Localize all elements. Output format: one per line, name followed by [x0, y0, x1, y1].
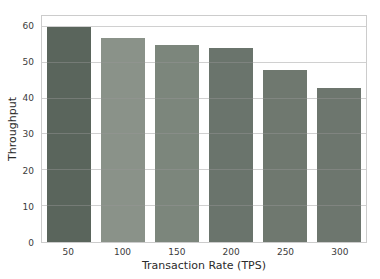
gridline-y-10: [42, 205, 366, 206]
x-tick-label-100: 100: [96, 247, 150, 257]
bar-100: [101, 38, 144, 242]
y-tick-label-10: 10: [0, 202, 34, 212]
bar-300: [317, 88, 360, 242]
bar-250: [263, 70, 306, 242]
x-tick-label-250: 250: [259, 247, 313, 257]
y-tick-label-20: 20: [0, 166, 34, 176]
gridline-y-20: [42, 169, 366, 170]
bar-150: [155, 45, 198, 242]
x-tick-label-50: 50: [41, 247, 95, 257]
gridline-y-60: [42, 26, 366, 27]
y-tick-label-40: 40: [0, 93, 34, 103]
x-tick-label-200: 200: [204, 247, 258, 257]
throughput-bar-chart: Throughput 0102030405060 501001502002503…: [0, 0, 380, 279]
gridline-y-50: [42, 62, 366, 63]
plot-area: [41, 15, 367, 243]
gridline-y-40: [42, 98, 366, 99]
y-tick-label-50: 50: [0, 57, 34, 67]
x-tick-label-150: 150: [150, 247, 204, 257]
gridline-y-30: [42, 133, 366, 134]
x-axis-label: Transaction Rate (TPS): [41, 259, 367, 272]
y-tick-label-60: 60: [0, 21, 34, 31]
y-tick-label-30: 30: [0, 129, 34, 139]
x-tick-label-300: 300: [313, 247, 367, 257]
bar-200: [209, 48, 252, 242]
y-tick-label-0: 0: [0, 238, 34, 248]
